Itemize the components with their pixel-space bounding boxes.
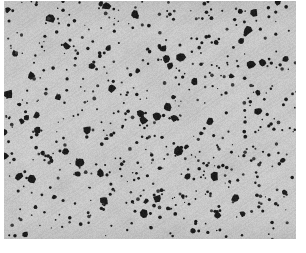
micrograph-figure: Grayscale micrograph: dark irregular par… <box>0 0 306 253</box>
micrograph-image <box>4 1 296 239</box>
